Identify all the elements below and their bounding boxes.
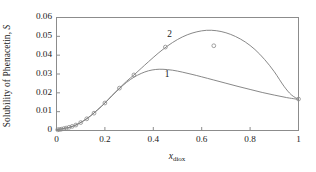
- x-tick-label: 0.4: [138, 134, 168, 144]
- x-tick-label: 0.6: [187, 134, 217, 144]
- solubility-chart-figure: Solubility of Phenacetin, S 00.010.020.0…: [0, 0, 316, 172]
- x-axis-label: xdiox: [56, 150, 298, 163]
- x-tick-label: 0.2: [90, 134, 120, 144]
- x-axis-label-subscript: diox: [173, 155, 185, 163]
- curve-1-label: 1: [165, 69, 170, 79]
- x-tick-label: 0: [42, 134, 72, 144]
- x-tick-label: 0.8: [235, 134, 265, 144]
- x-tick-label: 1: [284, 134, 314, 144]
- x-axis-ticklabels: 00.20.40.60.81: [0, 0, 316, 172]
- curve-2-label: 2: [167, 29, 172, 39]
